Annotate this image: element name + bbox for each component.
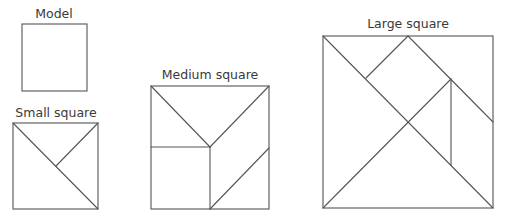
tangram-diagram: Model Small square Medium square Large s… xyxy=(0,0,505,221)
label-model: Model xyxy=(35,6,73,21)
medium-lower-diagonal xyxy=(210,148,269,209)
small-square-half-diagonal xyxy=(56,123,98,166)
figure-small-square: Small square xyxy=(13,105,98,209)
figure-model: Model xyxy=(22,6,87,91)
label-medium-square: Medium square xyxy=(162,67,259,82)
figure-large-square: Large square xyxy=(323,16,493,208)
figure-medium-square: Medium square xyxy=(151,67,269,209)
label-small-square: Small square xyxy=(15,105,97,120)
large-anti-diagonal-partial xyxy=(323,79,451,208)
large-top-left-edge xyxy=(366,36,408,78)
model-square xyxy=(22,24,87,91)
label-large-square: Large square xyxy=(367,16,449,31)
medium-left-diagonal xyxy=(151,86,210,147)
medium-right-diagonal xyxy=(210,86,269,147)
